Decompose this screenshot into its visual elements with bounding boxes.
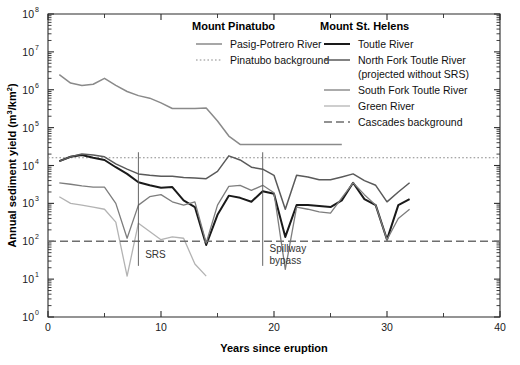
legend-label-sthelens-1: North Fork Toutle River <box>358 54 466 66</box>
svg-text:10: 10 <box>22 46 34 58</box>
svg-text:8: 8 <box>35 6 39 13</box>
x-axis-title: Years since eruption <box>220 342 328 354</box>
legend-label-pinatubo-1: Pinatubo background <box>230 54 329 66</box>
svg-text:4: 4 <box>35 158 39 165</box>
svg-text:30: 30 <box>381 321 393 333</box>
svg-text:10: 10 <box>22 8 34 20</box>
svg-text:1: 1 <box>35 271 39 278</box>
svg-text:40: 40 <box>494 321 506 333</box>
svg-text:10: 10 <box>22 197 34 209</box>
svg-text:2: 2 <box>35 233 39 240</box>
svg-text:0: 0 <box>35 309 39 316</box>
legend-label-sthelens-0: Toutle River <box>358 38 414 50</box>
srs-marker-label: SRS <box>145 249 166 260</box>
legend-label-pinatubo-0: Pasig-Potrero River <box>230 38 322 50</box>
legend-label-sthelens-1-line2: (projected without SRS) <box>358 68 469 80</box>
svg-text:3: 3 <box>35 195 39 202</box>
svg-text:10: 10 <box>22 160 34 172</box>
chart-canvas: 100101102103104105106107108 010203040 SR… <box>0 0 520 365</box>
svg-text:20: 20 <box>268 321 280 333</box>
svg-text:10: 10 <box>22 273 34 285</box>
y-axis-title-text: Annual sediment yield (m3/km2) <box>5 83 19 248</box>
svg-text:0: 0 <box>45 321 51 333</box>
svg-text:10: 10 <box>155 321 167 333</box>
svg-text:10: 10 <box>22 84 34 96</box>
svg-text:10: 10 <box>22 235 34 247</box>
spillway-bypass-marker-label-line2: bypass <box>269 255 301 266</box>
legend-title-sthelens: Mount St. Helens <box>320 20 409 32</box>
legend-label-sthelens-3: Green River <box>358 100 415 112</box>
y-axis-title: Annual sediment yield (m3/km2) <box>5 83 19 248</box>
svg-text:6: 6 <box>35 82 39 89</box>
legend-title-pinatubo: Mount Pinatubo <box>192 20 275 32</box>
svg-text:10: 10 <box>22 122 34 134</box>
svg-text:7: 7 <box>35 44 39 51</box>
svg-text:5: 5 <box>35 120 39 127</box>
sediment-yield-figure: 100101102103104105106107108 010203040 SR… <box>0 0 520 365</box>
legend-label-sthelens-4: Cascades background <box>358 116 463 128</box>
legend-label-sthelens-2: South Fork Toutle River <box>358 84 468 96</box>
spillway-bypass-marker-label: Spillway <box>269 243 306 254</box>
svg-text:10: 10 <box>22 311 34 323</box>
